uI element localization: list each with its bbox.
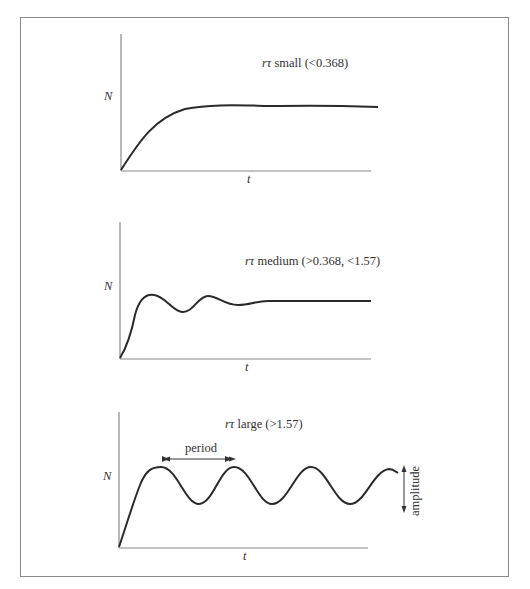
panel-medium-ylabel: N [104, 279, 112, 294]
diagram-canvas [0, 0, 530, 589]
panel-large-title: rτ large (>1.57) [225, 417, 303, 432]
panel-large-curve [119, 467, 398, 547]
panel-small-xlabel: t [247, 172, 250, 187]
panel-medium-title: rτ medium (>0.368, <1.57) [245, 254, 380, 269]
panel-small-axes [121, 34, 371, 171]
panel-medium-axes [120, 222, 371, 359]
panel-small-title: rτ small (<0.368) [262, 56, 348, 71]
panel-large-ylabel: N [103, 469, 111, 484]
period-label: period [185, 441, 217, 456]
panel-small-curve [121, 105, 378, 170]
amplitude-arrow [402, 465, 407, 513]
panel-medium-xlabel: t [245, 360, 248, 375]
panel-large-axes [119, 412, 368, 548]
panel-small-ylabel: N [104, 89, 112, 104]
panel-large-xlabel: t [243, 549, 246, 564]
panel-medium-curve [120, 295, 371, 358]
amplitude-label: amplitude [408, 466, 423, 516]
